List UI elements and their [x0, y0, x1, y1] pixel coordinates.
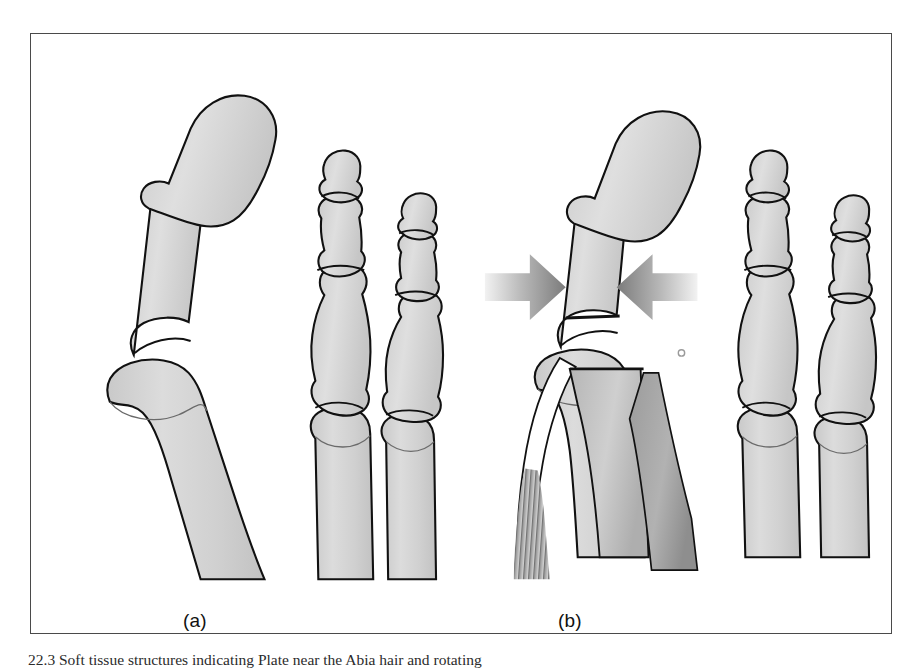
joint-line-first-mtp-b	[562, 331, 618, 345]
bone-second-middle-phalanx-b	[745, 195, 791, 277]
joint-line-first-mtp-a	[135, 339, 191, 353]
panel-a-group	[107, 95, 443, 579]
bone-second-metatarsal-a	[311, 407, 373, 580]
illustration-frame: (a) (b)	[30, 33, 892, 634]
bone-second-metatarsal-b	[738, 407, 800, 558]
bone-first-distal-phalanx-b	[567, 111, 700, 241]
panel-label-b: (b)	[558, 610, 582, 632]
bone-third-metatarsal-a	[382, 414, 437, 579]
panel-label-a: (a)	[183, 610, 207, 632]
figure-caption: 22.3 Soft tissue structures indicating P…	[28, 650, 908, 669]
soft-tissue-muscle-belly-b	[514, 469, 550, 580]
panel-b-group	[485, 111, 876, 579]
bone-third-proximal-phalanx-b	[816, 293, 876, 424]
foot-phalanges-illustration	[31, 34, 891, 633]
bone-first-distal-phalanx-a	[141, 95, 276, 226]
bone-second-proximal-phalanx-a	[311, 264, 370, 416]
bone-third-metatarsal-b	[814, 416, 869, 557]
bone-second-middle-phalanx-a	[318, 195, 364, 277]
compression-arrow-right	[617, 254, 698, 320]
compression-arrow-left	[485, 254, 566, 320]
reference-dot-b	[678, 350, 684, 356]
fracture-line-proximal-phalanx-b	[566, 316, 620, 318]
bone-first-metatarsal-a	[107, 360, 264, 580]
bone-second-proximal-phalanx-b	[738, 264, 797, 416]
bone-third-proximal-phalanx-a	[383, 291, 443, 422]
